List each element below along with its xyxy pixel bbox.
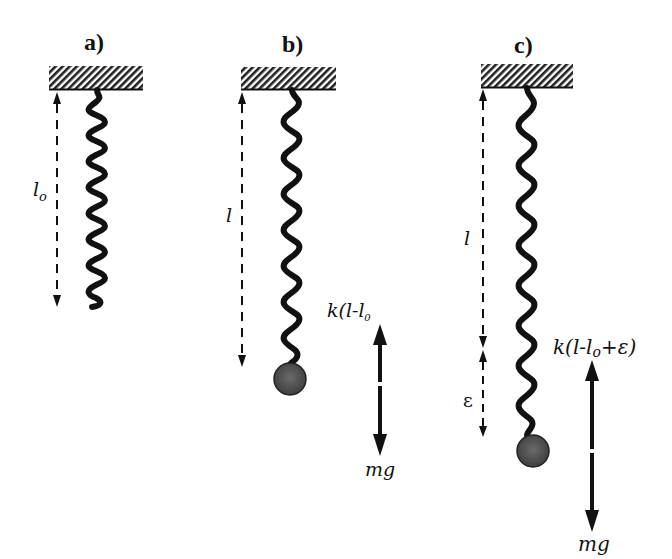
ceiling-support-b [241,67,336,90]
gravity-force-label-c: mg [578,532,610,556]
gravity-force-arrow-b [373,386,387,456]
panel-b: b) l k(l-l₀ mg [226,31,395,480]
spring-mass-diagram: a) lo b) l [0,0,672,559]
mass-ball-c [517,435,549,467]
length-arrow-c [479,89,487,348]
spring-force-arrow-b [373,324,387,382]
panel-c: c) l ε k(l- [463,32,636,556]
spring-force-label-b: k(l-l₀ [327,299,371,325]
panel-a-label: a) [84,29,104,55]
mass-ball-b [274,363,306,395]
spring-c [519,88,535,435]
spring-a [89,90,106,307]
gravity-force-arrow-c [585,453,599,532]
panel-a: a) lo [33,29,143,307]
spring-force-label-c: k(l-lo+ε) [553,335,636,360]
length-arrow-a [53,92,61,307]
ceiling-support-a [49,66,143,90]
panel-b-label: b) [282,31,303,57]
ceiling-support-c [481,64,573,88]
gravity-force-label-b: mg [365,458,395,480]
spring-force-arrow-c [585,360,599,449]
length-arrow-b [238,92,246,367]
length-label-a: lo [33,178,47,204]
displacement-arrow-c [479,350,487,437]
spring-b [284,90,300,365]
displacement-label-c: ε [463,389,473,411]
length-label-c: l [464,227,470,249]
panel-c-label: c) [514,32,533,58]
length-label-b: l [226,204,232,226]
